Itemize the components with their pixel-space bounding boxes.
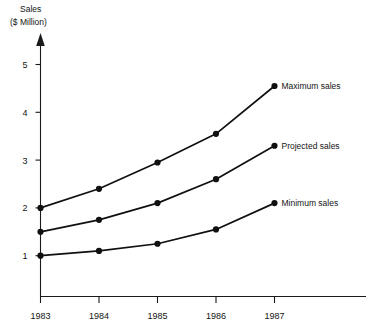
data-point-marker — [37, 253, 43, 259]
series-line — [41, 86, 275, 208]
data-point-marker — [37, 229, 43, 235]
data-point-marker — [37, 205, 43, 211]
data-point-marker — [271, 143, 277, 149]
series-label: Projected sales — [282, 141, 340, 151]
series-projected-sales — [37, 143, 277, 235]
y-tick-label-3: 3 — [22, 156, 27, 166]
series-label: Maximum sales — [282, 81, 341, 91]
data-point-marker — [96, 248, 102, 254]
y-axis-title-line2: ($ Million) — [10, 17, 47, 27]
y-tick-label-2: 2 — [22, 203, 27, 213]
x-axis-tick-labels: 1983 1984 1985 1986 1987 — [30, 311, 284, 321]
data-point-marker — [271, 83, 277, 89]
data-point-marker — [213, 176, 219, 182]
y-axis-arrow-icon — [36, 33, 45, 46]
y-axis-title-line1: Sales — [20, 4, 41, 14]
x-tick-label-1987: 1987 — [264, 311, 284, 321]
series-minimum-sales — [37, 200, 277, 259]
y-tick-label-1: 1 — [22, 251, 27, 261]
x-tick-label-1986: 1986 — [206, 311, 226, 321]
sales-line-chart: Sales ($ Million) 5 4 3 2 1 — [0, 0, 373, 330]
x-tick-label-1983: 1983 — [30, 311, 50, 321]
data-point-marker — [96, 217, 102, 223]
y-axis-ticks — [36, 65, 41, 256]
y-tick-label-5: 5 — [22, 60, 27, 70]
data-point-marker — [96, 186, 102, 192]
y-tick-label-4: 4 — [22, 108, 27, 118]
x-tick-label-1984: 1984 — [89, 311, 109, 321]
data-point-marker — [154, 241, 160, 247]
data-point-marker — [213, 226, 219, 232]
annotation-projected-sales: Projected sales — [282, 141, 340, 151]
chart-canvas: Sales ($ Million) 5 4 3 2 1 — [0, 0, 373, 330]
data-point-marker — [154, 200, 160, 206]
data-point-marker — [154, 159, 160, 165]
y-axis-tick-labels: 5 4 3 2 1 — [22, 60, 27, 261]
x-axis-ticks — [41, 297, 275, 304]
series-maximum-sales — [37, 83, 277, 211]
annotation-maximum-sales: Maximum sales — [282, 81, 341, 91]
series-label: Minimum sales — [282, 198, 339, 208]
series-annotations: Maximum salesProjected salesMinimum sale… — [282, 81, 341, 208]
annotation-minimum-sales: Minimum sales — [282, 198, 339, 208]
x-tick-label-1985: 1985 — [147, 311, 167, 321]
data-point-marker — [271, 200, 277, 206]
series-line — [41, 203, 275, 256]
series-layer — [37, 83, 277, 259]
data-point-marker — [213, 131, 219, 137]
